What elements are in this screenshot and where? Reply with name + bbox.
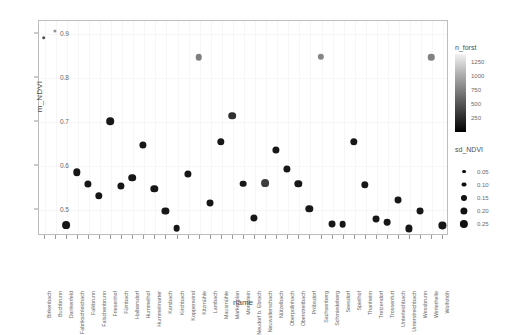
data-point[interactable] (128, 174, 136, 182)
data-point[interactable] (173, 225, 180, 232)
grid-line-x (133, 21, 134, 234)
y-tick-label: 0.7 (45, 117, 69, 124)
data-point[interactable] (428, 54, 435, 61)
grid-line-x (144, 21, 145, 234)
data-point[interactable] (417, 208, 424, 215)
grid-line-x (178, 21, 179, 234)
data-point[interactable] (228, 112, 236, 120)
x-tick-mark (110, 235, 111, 239)
colorbar-n-forst: 12501000750500250 (455, 54, 507, 132)
data-point[interactable] (384, 218, 391, 225)
y-tick-label: 0.8 (45, 74, 69, 81)
data-point[interactable] (240, 180, 247, 187)
data-point[interactable] (206, 200, 213, 207)
grid-line-x (410, 21, 411, 234)
grid-line-x (432, 21, 433, 234)
x-tick-mark (332, 235, 333, 239)
grid-line-x (288, 21, 289, 234)
data-point[interactable] (62, 221, 70, 229)
plot-panel (38, 20, 448, 235)
grid-line-x (388, 21, 389, 234)
x-tick-label: Schmiedeberg (334, 291, 340, 326)
y-tick-mark (34, 208, 38, 209)
y-tick-mark (34, 33, 38, 34)
size-legend-dot (462, 170, 466, 174)
size-legend-label: 0.10 (477, 182, 489, 188)
data-point[interactable] (106, 117, 114, 125)
x-tick-mark (321, 235, 322, 239)
x-tick-mark (232, 235, 233, 239)
grid-line-x (333, 21, 334, 234)
size-legend-row[interactable]: 0.25 (455, 217, 513, 230)
x-tick-mark (77, 235, 78, 239)
grid-line-x (56, 21, 57, 234)
size-legend-row[interactable]: 0.05 (455, 165, 513, 178)
grid-line-x (111, 21, 112, 234)
data-point[interactable] (373, 216, 380, 223)
x-tick-mark (165, 235, 166, 239)
colorbar-tick (466, 104, 469, 105)
x-tick-label: Hummelmarter (156, 291, 162, 327)
grid-line-x (322, 21, 323, 234)
x-tick-mark (387, 235, 388, 239)
y-tick-mark (34, 164, 38, 165)
x-tick-mark (121, 235, 122, 239)
x-tick-mark (132, 235, 133, 239)
size-legend-label: 0.25 (477, 221, 489, 227)
x-tick-mark (221, 235, 222, 239)
grid-line-x (155, 21, 156, 234)
x-tick-mark (177, 235, 178, 239)
size-legend-dot (462, 182, 467, 187)
grid-line-x (89, 21, 90, 234)
grid-line-x (366, 21, 367, 234)
grid-line-x (344, 21, 345, 234)
data-point[interactable] (328, 220, 335, 227)
size-legend-row[interactable]: 0.20 (455, 204, 513, 217)
grid-line-x (443, 21, 444, 234)
x-tick-mark (343, 235, 344, 239)
data-point[interactable] (42, 36, 46, 40)
size-legend-label: 0.15 (477, 195, 489, 201)
grid-line-x (421, 21, 422, 234)
grid-line-y (39, 166, 447, 167)
x-tick-mark (398, 235, 399, 239)
colorbar-tick (466, 118, 469, 119)
colorbar-tick (466, 76, 469, 77)
grid-line-x (355, 21, 356, 234)
x-tick-mark (188, 235, 189, 239)
grid-line-x (222, 21, 223, 234)
grid-line-x (100, 21, 101, 234)
data-point[interactable] (395, 196, 402, 203)
colorbar-tick-label: 1000 (471, 73, 484, 79)
legend-title-sd-ndvi: sd_NDVI (455, 146, 513, 153)
y-axis-title: m_NDVI (35, 52, 44, 142)
size-legend-dot (460, 219, 468, 227)
x-tick-mark (287, 235, 288, 239)
x-tick-mark (309, 235, 310, 239)
grid-line-x (299, 21, 300, 234)
data-point[interactable] (195, 54, 202, 61)
x-tick-mark (210, 235, 211, 239)
grid-line-x (310, 21, 311, 234)
x-tick-mark (154, 235, 155, 239)
data-point[interactable] (261, 179, 269, 187)
x-tick-mark (99, 235, 100, 239)
data-point[interactable] (339, 221, 346, 228)
x-tick-mark (276, 235, 277, 239)
size-legend-label: 0.05 (477, 169, 489, 175)
x-tick-label: Oberpollnhach (289, 291, 295, 326)
grid-line-y (39, 210, 447, 211)
grid-line-x (244, 21, 245, 234)
grid-line-x (200, 21, 201, 234)
x-tick-mark (420, 235, 421, 239)
grid-line-x (233, 21, 234, 234)
colorbar-tick (466, 90, 469, 91)
y-tick-label: 0.9 (45, 30, 69, 37)
size-legend-row[interactable]: 0.10 (455, 178, 513, 191)
x-tick-mark (243, 235, 244, 239)
x-tick-mark (143, 235, 144, 239)
size-legend-row[interactable]: 0.15 (455, 191, 513, 204)
x-tick-label: Unterleichbach (400, 291, 406, 327)
x-tick-mark (298, 235, 299, 239)
